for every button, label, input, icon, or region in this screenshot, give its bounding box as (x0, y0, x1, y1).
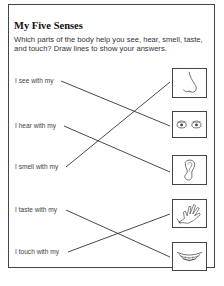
worksheet-title: My Five Senses (14, 20, 83, 31)
prompt-taste: I taste with my (15, 206, 57, 213)
ear-icon (173, 156, 206, 184)
eyes-icon (173, 112, 206, 137)
nose-picture[interactable] (172, 68, 207, 98)
ear-picture[interactable] (172, 155, 207, 185)
eyes-picture[interactable] (172, 111, 207, 138)
prompt-hear: I hear with my (15, 122, 56, 129)
mouth-icon (173, 243, 206, 270)
prompt-touch: I touch with my (15, 248, 59, 255)
worksheet-instructions: Which parts of the body help you see, he… (14, 35, 214, 54)
nose-icon (173, 69, 206, 97)
mouth-picture[interactable] (172, 242, 207, 271)
hand-picture[interactable] (172, 199, 207, 228)
hand-icon (173, 200, 206, 227)
prompt-see: I see with my (15, 77, 53, 84)
prompt-smell: I smell with my (15, 163, 58, 170)
